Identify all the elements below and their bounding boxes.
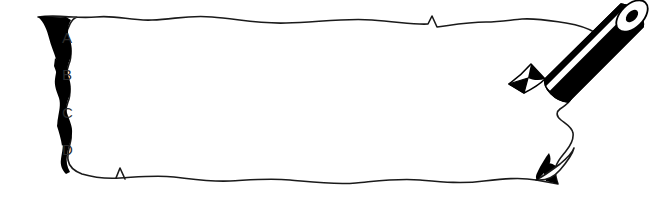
choice-letter-b: B — [62, 66, 72, 83]
note-illustration: A B C D — [0, 0, 672, 199]
choice-letter-d: D — [62, 141, 73, 158]
choice-letter-a: A — [62, 29, 72, 46]
paper-outline — [38, 16, 596, 184]
paper-sheet — [38, 16, 596, 184]
choice-letter-c: C — [62, 104, 73, 121]
torn-paper-note-scene: A B C D — [0, 0, 672, 199]
